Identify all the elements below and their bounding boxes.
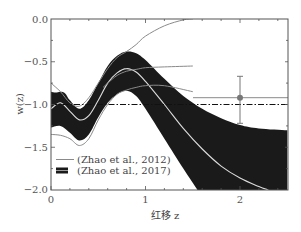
y-axis-label: w(z) [14, 93, 25, 115]
y-tick-label: −1.5 [24, 142, 48, 153]
x-tick-label: 2 [237, 194, 243, 205]
zhao-2017-band [51, 51, 287, 198]
y-tick-label: 0.0 [32, 14, 48, 25]
y-tick-label: −0.5 [24, 56, 48, 67]
y-tick-label: −1.0 [24, 99, 48, 110]
legend: (Zhao et al., 2012) (Zhao et al., 2017) [56, 154, 171, 176]
x-tick-label: 1 [142, 194, 148, 205]
x-tick-label: 0 [48, 194, 54, 205]
legend-label-2012: (Zhao et al., 2012) [77, 154, 171, 165]
dark-energy-eos-chart: 0.0 −0.5 −1.0 −1.5 −2.0 0 1 2 红移 z w(z) … [0, 0, 301, 232]
data-point-marker [237, 95, 243, 101]
y-tick-label: −2.0 [24, 184, 48, 195]
legend-label-2017: (Zhao et al., 2017) [77, 165, 171, 176]
x-axis-label: 红移 z [151, 209, 179, 221]
